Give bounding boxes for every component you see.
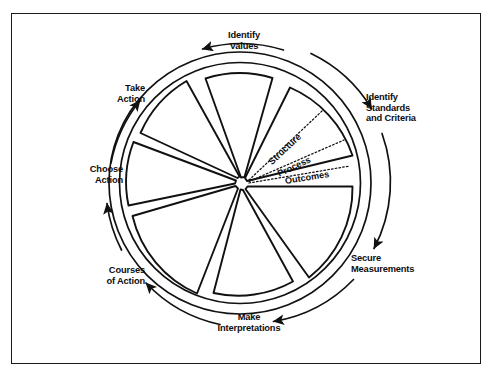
figure-page: Structure Process Outcomes Identify Valu… xyxy=(0,0,491,376)
wheel-sectors xyxy=(126,73,352,296)
arrow-to-secure-measurements xyxy=(374,134,390,249)
arrow-to-choose-action xyxy=(107,204,122,251)
label-courses-of-action: Courses of Action xyxy=(106,265,145,286)
label-take-action: Take Action xyxy=(117,83,145,104)
label-identify-standards-and-criteria: Identify Standards and Criteria xyxy=(366,92,416,124)
label-secure-measurements: Secure Measurements xyxy=(351,253,414,274)
label-make-interpretations: Make Interpretations xyxy=(218,312,281,333)
label-identify-values: Identify Values xyxy=(228,30,260,51)
label-choose-action: Choose Action xyxy=(90,164,123,185)
